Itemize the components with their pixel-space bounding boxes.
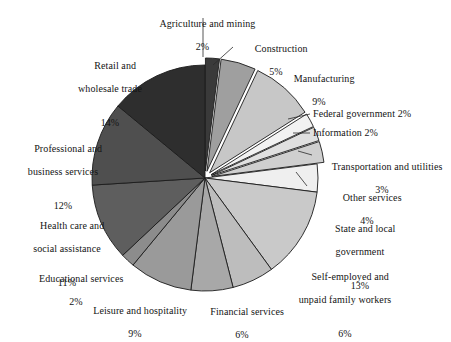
slice-label-state-local-line2: government xyxy=(301,246,419,258)
slice-label-financial-pct: 6% xyxy=(186,329,298,341)
slice-label-construction-text: Construction xyxy=(255,43,308,54)
slice-label-professional-pct: 12% xyxy=(8,200,118,212)
slice-label-manufacturing: Manufacturing 9% xyxy=(272,61,366,130)
slice-label-retail-line2: wholesale trade xyxy=(52,83,168,95)
slice-label-financial-services: Financial services 6% xyxy=(186,294,298,342)
slice-label-transportation-text: Transportation and utilities xyxy=(332,161,443,172)
slice-label-federal-government-text: Federal government 2% xyxy=(313,108,411,119)
slice-label-self-employed-line1: Self-employed and xyxy=(311,271,389,282)
slice-label-state-local-line1: State and local xyxy=(335,223,395,234)
slice-label-other-services-text: Other services xyxy=(343,192,402,203)
slice-label-retail-pct: 14% xyxy=(52,117,168,129)
slice-label-agriculture-text: Agriculture and mining xyxy=(159,18,255,29)
slice-label-manufacturing-text: Manufacturing xyxy=(294,73,355,84)
slice-label-federal-government: Federal government 2% xyxy=(313,108,411,120)
slice-label-manufacturing-pct: 9% xyxy=(272,96,366,108)
slice-label-health-care-pct: 11% xyxy=(12,277,122,289)
slice-label-financial-text: Financial services xyxy=(210,306,284,317)
slice-label-professional-line2: business services xyxy=(8,166,118,178)
slice-label-information: Information 2% xyxy=(313,127,378,139)
slice-label-health-care-line2: social assistance xyxy=(12,243,122,255)
slice-label-retail-line1: Retail and xyxy=(94,60,136,71)
slice-label-retail-wholesale: Retail and wholesale trade 14% xyxy=(52,48,168,152)
slice-label-information-text: Information 2% xyxy=(313,127,378,138)
